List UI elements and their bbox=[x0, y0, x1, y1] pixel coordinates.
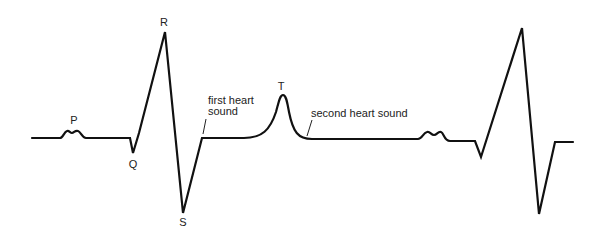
ecg-trace bbox=[32, 28, 573, 214]
second-heart-sound-label: second heart sound bbox=[311, 107, 408, 119]
first-heart-sound-label-line2: sound bbox=[208, 105, 238, 117]
p-wave-label: P bbox=[70, 114, 77, 126]
r-wave-label: R bbox=[160, 16, 168, 28]
s-wave-label: S bbox=[179, 216, 186, 228]
second-heart-sound-leader bbox=[307, 120, 312, 136]
t-wave-label: T bbox=[278, 80, 285, 92]
first-heart-sound-leader bbox=[203, 119, 206, 134]
q-wave-label: Q bbox=[129, 158, 138, 170]
ecg-diagram: P Q R S T first heart sound second heart… bbox=[0, 0, 605, 244]
